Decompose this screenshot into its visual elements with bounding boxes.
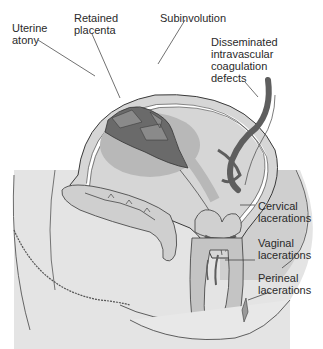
diagram-canvas: Uterine atony Retained placenta Subinvol… <box>0 0 323 349</box>
label-perineal-lacerations: Perineal lacerations <box>258 272 311 296</box>
label-vaginal-lacerations: Vaginal lacerations <box>258 237 311 261</box>
label-uterine-atony: Uterine atony <box>12 22 47 46</box>
cervix <box>195 210 241 239</box>
label-cervical-lacerations: Cervical lacerations <box>258 200 311 224</box>
label-retained-placenta: Retained placenta <box>74 12 118 36</box>
label-subinvolution: Subinvolution <box>160 12 226 24</box>
label-dic: Disseminated intravascular coagulation d… <box>211 36 278 84</box>
